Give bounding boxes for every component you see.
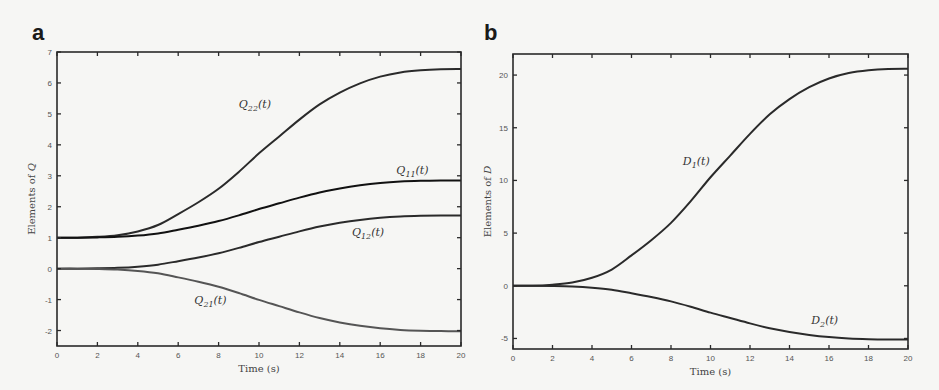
panel-b: b D1(t)D2(t)02468101214161820-505101520T… [470,0,939,390]
x-tick-label: 6 [629,354,634,363]
curve-label: Q22(t) [239,98,271,113]
y-tick-label: 4 [48,141,53,150]
x-axis-title: Time (s) [690,366,731,377]
x-tick-label: 20 [457,351,466,360]
plot-frame [57,52,461,346]
y-tick-label: 3 [48,172,53,181]
x-tick-label: 16 [825,354,834,363]
x-tick-label: 4 [590,354,595,363]
y-tick-label: -1 [45,296,53,305]
y-tick-label: -2 [45,327,53,336]
curve-label: D2(t) [810,314,838,329]
y-tick-label: 0 [48,265,53,274]
y-tick-label: 1 [48,234,53,243]
x-tick-label: 16 [376,351,385,360]
x-tick-label: 4 [136,351,141,360]
y-tick-label: 5 [48,110,53,119]
curve-q12t [57,215,461,268]
y-tick-label: 7 [48,48,53,57]
curve-label: Q11(t) [396,164,428,179]
x-tick-label: 2 [550,354,555,363]
curve-q22t [57,69,461,238]
y-tick-label: -5 [501,334,509,343]
x-tick-label: 18 [864,354,873,363]
y-tick-label: 0 [504,282,509,291]
y-tick-label: 20 [499,71,508,80]
x-tick-label: 14 [785,354,794,363]
curve-label: Q21(t) [194,294,226,309]
y-tick-label: 10 [499,176,508,185]
x-tick-label: 10 [706,354,715,363]
curve-q21t [57,269,461,332]
x-tick-label: 12 [746,354,755,363]
y-tick-label: 2 [48,203,53,212]
chart-b: D1(t)D2(t)02468101214161820-505101520Tim… [470,0,939,390]
y-tick-label: 5 [504,229,509,238]
x-tick-label: 6 [176,351,181,360]
y-tick-label: 6 [48,79,53,88]
x-tick-label: 8 [216,351,221,360]
y-tick-label: 15 [499,124,508,133]
curve-d1t [513,69,908,286]
x-tick-label: 20 [904,354,913,363]
panel-a: a Q22(t)Q11(t)Q12(t)Q21(t)02468101214161… [0,0,469,390]
curve-d2t [513,286,908,340]
curve-q11t [57,180,461,237]
curve-label: D1(t) [682,155,710,170]
x-tick-label: 12 [295,351,304,360]
y-axis-title: Elements of Q [26,163,37,235]
plot-frame [513,54,908,349]
x-tick-label: 10 [255,351,264,360]
x-tick-label: 0 [511,354,516,363]
curve-label: Q12(t) [352,226,384,241]
x-tick-label: 2 [95,351,100,360]
x-tick-label: 8 [669,354,674,363]
x-tick-label: 18 [416,351,425,360]
x-tick-label: 14 [335,351,344,360]
x-axis-title: Time (s) [238,363,279,374]
y-axis-title: Elements of D [482,166,493,238]
x-tick-label: 0 [55,351,60,360]
chart-a: Q22(t)Q11(t)Q12(t)Q21(t)0246810121416182… [0,0,469,390]
